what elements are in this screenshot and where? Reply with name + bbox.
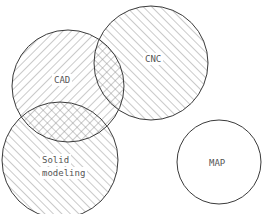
solid-modeling-label-line2: modeling	[40, 167, 87, 179]
cad-label: CAD	[52, 74, 72, 86]
cnc-label: CNC	[143, 53, 163, 65]
solid-modeling-label-line1: Solid	[40, 154, 71, 166]
venn-diagram	[0, 0, 265, 214]
map-label: MAP	[207, 157, 227, 169]
